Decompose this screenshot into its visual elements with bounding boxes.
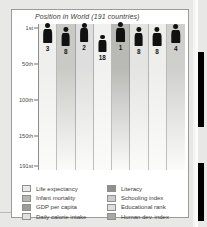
legend-swatch <box>22 204 31 211</box>
chart-column[interactable]: 8 <box>130 24 148 170</box>
y-axis-tick-label: 150th <box>19 133 33 139</box>
chart-column[interactable]: 4 <box>167 24 185 170</box>
person-icon-body <box>99 40 107 52</box>
legend-swatch <box>107 204 116 211</box>
value-label: 8 <box>64 48 68 55</box>
legend-swatch <box>22 213 31 220</box>
value-label: 3 <box>46 45 50 52</box>
y-axis-tick-label: 1st <box>26 25 33 31</box>
plot-wrapper: 1st50th100th150th191st 382181884 <box>12 10 190 183</box>
person-icon-body <box>43 29 52 43</box>
legend-column-left: Life expectancyInfant mortalityGDP per c… <box>22 184 86 222</box>
chart-card: Position in World (191 countries) 1st50t… <box>11 9 189 218</box>
chart-column[interactable]: 8 <box>149 24 167 170</box>
legend-label: Educational rank <box>121 204 166 210</box>
person-icon <box>62 27 70 46</box>
legend-column-right: LiteracySchooling indexEducational rankH… <box>107 184 169 222</box>
person-icon-body <box>62 33 70 46</box>
legend-label: Daily calorie intake <box>36 214 86 220</box>
page-root: Position in World (191 countries) 1st50t… <box>0 0 207 227</box>
chart-column[interactable]: 8 <box>57 24 75 170</box>
y-axis-tick-label: 50th <box>22 61 33 67</box>
person-icon-head <box>155 27 160 32</box>
value-label: 2 <box>82 44 86 51</box>
value-label: 4 <box>174 45 178 52</box>
person-icon <box>135 27 143 46</box>
page-edge-bar-top <box>198 52 204 127</box>
legend-item[interactable]: Schooling index <box>107 193 169 202</box>
y-axis-tick-label: 191st <box>19 163 33 169</box>
legend-item[interactable]: Infant mortality <box>22 193 86 202</box>
person-icon-body <box>172 30 181 44</box>
legend-item[interactable]: Daily calorie intake <box>22 212 86 221</box>
legend-swatch <box>107 195 116 202</box>
y-axis-tick-label: 100th <box>19 97 33 103</box>
person-icon <box>43 23 52 43</box>
chart-legend: Life expectancyInfant mortalityGDP per c… <box>12 184 190 218</box>
value-label: 1 <box>119 44 123 51</box>
person-icon-head <box>173 24 178 29</box>
value-label: 18 <box>99 54 106 61</box>
person-icon <box>172 24 181 44</box>
person-icon-head <box>100 35 104 39</box>
person-icon-body <box>116 28 125 42</box>
legend-item[interactable]: Literacy <box>107 184 169 193</box>
legend-label: Infant mortality <box>36 195 75 201</box>
value-label: 8 <box>137 48 141 55</box>
legend-label: Human dev. index <box>121 214 169 220</box>
person-icon-head <box>63 27 68 32</box>
legend-swatch <box>22 195 31 202</box>
person-icon-body <box>135 33 143 46</box>
legend-swatch <box>107 213 116 220</box>
y-axis: 1st50th100th150th191st <box>16 24 38 170</box>
legend-label: Literacy <box>121 186 142 192</box>
person-icon <box>99 35 107 52</box>
legend-label: Schooling index <box>121 195 163 201</box>
person-icon <box>153 27 161 46</box>
person-icon-head <box>136 27 141 32</box>
legend-item[interactable]: Educational rank <box>107 203 169 212</box>
legend-swatch <box>107 185 116 192</box>
plot-area: 382181884 <box>38 24 184 170</box>
chart-column[interactable]: 18 <box>94 24 112 170</box>
person-icon-body <box>153 33 161 46</box>
chart-column[interactable]: 2 <box>76 24 94 170</box>
legend-item[interactable]: Life expectancy <box>22 184 86 193</box>
page-edge-bar-bottom <box>198 163 204 221</box>
person-icon-head <box>82 23 87 28</box>
person-icon <box>116 22 125 42</box>
person-icon-head <box>118 22 123 27</box>
legend-label: GDP per capita <box>36 204 77 210</box>
value-label: 8 <box>155 48 159 55</box>
legend-swatch <box>22 185 31 192</box>
person-icon-body <box>80 28 89 42</box>
person-icon <box>80 23 89 43</box>
legend-item[interactable]: Human dev. index <box>107 212 169 221</box>
chart-column[interactable]: 1 <box>112 24 130 170</box>
legend-label: Life expectancy <box>36 186 78 192</box>
legend-item[interactable]: GDP per capita <box>22 203 86 212</box>
chart-column[interactable]: 3 <box>39 24 57 170</box>
person-icon-head <box>45 23 50 28</box>
